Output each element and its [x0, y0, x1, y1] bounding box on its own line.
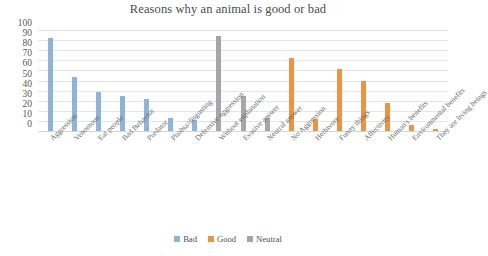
legend-swatch-icon	[174, 236, 180, 242]
y-axis-tick: 60	[23, 59, 33, 68]
bar	[72, 77, 77, 131]
bar	[144, 99, 149, 131]
bar	[289, 58, 294, 131]
plot-area	[38, 30, 448, 131]
bar	[120, 96, 125, 131]
legend-item[interactable]: Good	[208, 234, 236, 244]
bar	[433, 129, 438, 131]
bar	[385, 103, 390, 131]
bar	[337, 69, 342, 131]
y-axis-tick: 20	[23, 100, 33, 109]
y-axis-tick: 30	[23, 90, 33, 99]
legend-item[interactable]: Bad	[174, 234, 197, 244]
y-axis-tick: 40	[23, 80, 33, 89]
legend-label: Good	[217, 234, 236, 244]
legend-swatch-icon	[208, 236, 214, 242]
legend-label: Neutral	[256, 234, 282, 244]
chart-legend: BadGoodNeutral	[0, 234, 456, 244]
legend-item[interactable]: Neutral	[247, 234, 282, 244]
bar	[409, 125, 414, 131]
bar	[361, 81, 366, 132]
bar	[216, 36, 221, 131]
y-axis-tick: 0	[27, 120, 32, 129]
bar	[96, 92, 101, 131]
y-axis-tick: 100	[18, 19, 32, 28]
legend-swatch-icon	[247, 236, 253, 242]
chart-title: Reasons why an animal is good or bad	[0, 2, 456, 17]
bar	[48, 38, 53, 131]
y-axis-tick: 80	[23, 39, 33, 48]
y-axis-tick-labels: 1009080706050403020100	[0, 24, 34, 137]
gridline	[38, 131, 448, 132]
y-axis-tick: 70	[23, 49, 33, 58]
y-axis-tick: 90	[23, 29, 33, 38]
bar-group	[38, 30, 448, 131]
y-axis-tick: 50	[23, 70, 33, 79]
bar	[313, 119, 318, 131]
bar	[168, 118, 173, 131]
bar	[192, 120, 197, 131]
legend-label: Bad	[183, 234, 197, 244]
y-axis-tick: 10	[23, 110, 33, 119]
bar	[265, 118, 270, 131]
bar	[241, 96, 246, 131]
